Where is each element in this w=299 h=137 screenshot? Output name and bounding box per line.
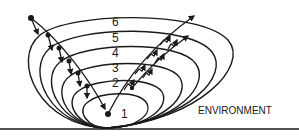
level-label-1: 1 — [121, 107, 128, 121]
zigzag-arrow-4b — [155, 54, 164, 63]
nested-levels-diagram: 6 5 4 3 2 1 ENVIRON — [0, 0, 299, 137]
level-label-5: 5 — [112, 31, 119, 45]
level-label-4: 4 — [112, 46, 119, 60]
main-descending-arrow — [31, 18, 105, 109]
zigzag-arrow-5 — [160, 36, 170, 45]
level-label-2: 2 — [112, 76, 119, 90]
level-dot-1-right — [130, 86, 134, 90]
environment-label: ENVIRONMENT — [198, 105, 272, 116]
level-label-3: 3 — [112, 61, 119, 75]
level-label-6: 6 — [112, 15, 119, 29]
small-arrow-4 — [59, 48, 62, 62]
